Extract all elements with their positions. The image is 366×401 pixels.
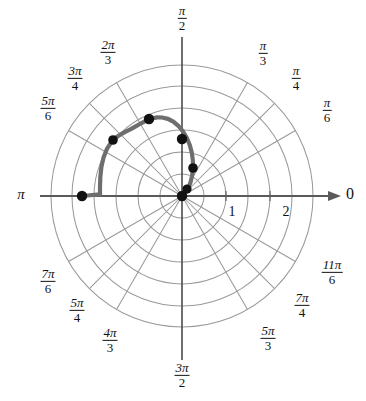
angle-label-numerator: π	[292, 64, 301, 79]
spoke-120	[117, 83, 183, 196]
angle-label-five-pi-over-3: 5π 3	[260, 324, 275, 352]
angle-label-denominator: 4	[69, 311, 84, 325]
angle-label-denominator: 4	[294, 306, 309, 320]
polar-plot-figure: π 2 2π 3 3π 4 5π 6 π 7π 6 5π 4	[0, 0, 366, 401]
angle-label-five-pi-over-6: 5π 6	[40, 94, 55, 122]
spoke-150	[69, 131, 182, 197]
angle-label-numerator: 5π	[69, 296, 84, 311]
angle-label-two-pi-over-3: 2π 3	[100, 38, 115, 66]
axis-arrowhead-icon	[328, 191, 341, 201]
spoke-210	[69, 196, 182, 262]
angle-label-numerator: π	[323, 96, 332, 111]
radial-tick-text: 1	[229, 204, 236, 219]
angle-label-numerator: 7π	[40, 267, 55, 282]
angle-label-denominator: 6	[323, 111, 332, 125]
angle-label-denominator: 4	[67, 79, 82, 93]
radial-tick-label-2: 2	[283, 204, 290, 220]
angle-label-denominator: 2	[174, 376, 189, 390]
angle-label-pi: π	[17, 187, 25, 202]
angle-label-denominator: 3	[102, 341, 117, 355]
spoke-225	[89, 196, 182, 289]
angle-label-text: 0	[346, 186, 354, 202]
data-point-theta-pi	[77, 191, 87, 201]
cardioid-curve	[82, 117, 193, 196]
angle-label-pi-over-4: π 4	[292, 64, 301, 92]
angle-label-numerator: 4π	[102, 326, 117, 341]
angle-label-numerator: 3π	[67, 64, 82, 79]
angle-label-numerator: 5π	[260, 324, 275, 339]
angle-label-denominator: 3	[260, 339, 275, 353]
angle-label-pi-over-6: π 6	[323, 96, 332, 124]
spoke-240	[117, 196, 183, 309]
angle-label-zero: 0	[346, 186, 354, 202]
angle-label-pi-over-3: π 3	[259, 39, 268, 67]
spoke-45	[182, 103, 275, 196]
angle-label-seven-pi-over-4: 7π 4	[294, 291, 309, 319]
polar-grid-canvas	[0, 0, 366, 401]
angle-label-three-pi-over-2: 3π 2	[174, 361, 189, 389]
angle-label-numerator: 5π	[40, 94, 55, 109]
spoke-30	[182, 131, 295, 197]
angle-label-numerator: π	[178, 4, 187, 19]
angle-label-four-pi-over-3: 4π 3	[102, 326, 117, 354]
radial-tick-text: 2	[283, 204, 290, 219]
angle-label-five-pi-over-4: 5π 4	[69, 296, 84, 324]
angle-label-numerator: 11π	[322, 258, 343, 273]
data-point-theta-pi-2	[177, 134, 187, 144]
angle-label-denominator: 6	[322, 273, 343, 287]
angle-label-denominator: 6	[40, 282, 55, 296]
angle-label-denominator: 4	[292, 79, 301, 93]
data-point-theta-pi-3	[188, 163, 198, 173]
spoke-330	[182, 196, 295, 262]
angle-label-denominator: 3	[259, 54, 268, 68]
angle-label-denominator: 3	[100, 53, 115, 67]
angle-label-denominator: 6	[40, 109, 55, 123]
angle-label-numerator: 3π	[174, 361, 189, 376]
angle-label-numerator: 2π	[100, 38, 115, 53]
angle-label-numerator: 7π	[294, 291, 309, 306]
data-point-theta-2pi-3	[144, 114, 154, 124]
data-point-theta-5pi-6	[108, 135, 118, 145]
angle-label-three-pi-over-4: 3π 4	[67, 64, 82, 92]
angle-label-seven-pi-over-6: 7π 6	[40, 267, 55, 295]
angle-label-pi-over-2: π 2	[178, 4, 187, 32]
data-point-theta-pi-6	[182, 184, 191, 193]
radial-tick-label-1: 1	[229, 204, 236, 220]
angle-label-text: π	[17, 187, 25, 202]
spoke-300	[182, 196, 248, 309]
angle-label-numerator: π	[259, 39, 268, 54]
angle-label-denominator: 2	[178, 19, 187, 33]
angle-label-eleven-pi-over-6: 11π 6	[322, 258, 343, 286]
